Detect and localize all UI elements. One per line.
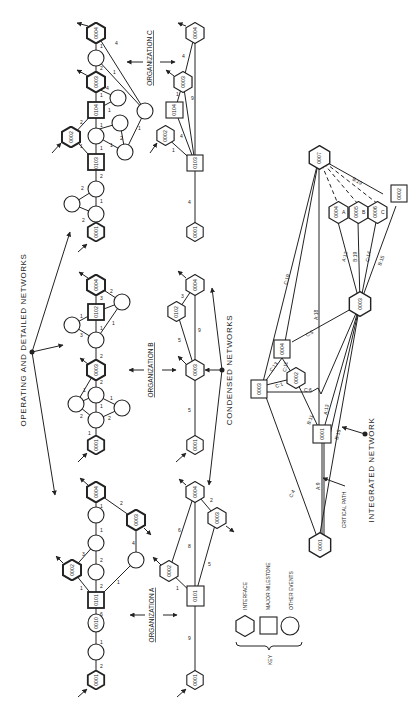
interface-hexagon-icon (236, 616, 254, 637)
event-circle-icon (281, 617, 299, 635)
svg-text:2: 2 (81, 185, 84, 191)
svg-text:5: 5 (178, 337, 181, 343)
svg-text:4: 4 (188, 199, 191, 205)
svg-text:0002: 0002 (68, 131, 74, 143)
svg-text:0001: 0001 (319, 428, 325, 440)
svg-text:4: 4 (115, 40, 118, 46)
svg-text:2: 2 (210, 497, 213, 503)
svg-text:0004: 0004 (192, 486, 198, 498)
svg-text:2: 2 (82, 217, 85, 223)
svg-text:1: 1 (100, 122, 103, 128)
svg-text:0102: 0102 (93, 306, 99, 318)
svg-text:6: 6 (178, 527, 181, 533)
svg-text:1: 1 (100, 92, 103, 98)
svg-text:C:6: C:6 (304, 387, 312, 393)
svg-text:0102: 0102 (173, 306, 179, 318)
svg-text:0003: 0003 (93, 364, 99, 376)
svg-text:C:13: C:13 (268, 360, 279, 372)
svg-text:C:4: C:4 (287, 489, 296, 499)
interface-node-0002: 0002 (287, 368, 305, 389)
interface-node-0007: 0007 (309, 146, 330, 170)
svg-text:9: 9 (188, 635, 191, 641)
svg-text:1: 1 (112, 320, 115, 326)
key-brace (236, 642, 302, 650)
svg-text:0004: 0004 (93, 279, 99, 291)
svg-text:1: 1 (100, 43, 103, 49)
svg-text:8: 8 (188, 543, 191, 549)
milestone-square-icon (260, 617, 277, 634)
interface-node: 0004 (87, 23, 105, 44)
svg-text:1: 1 (113, 69, 116, 75)
svg-text:0002: 0002 (396, 188, 402, 200)
interface-node: 0003 (186, 360, 204, 381)
org-a-label: ORGANIZATION A (148, 587, 155, 642)
interface-node: 0002 (62, 127, 80, 148)
svg-text:A:12: A:12 (340, 251, 349, 263)
svg-text:C: C (381, 209, 385, 215)
interface-node-0003: 0003 (349, 292, 370, 317)
svg-text:B:15: B:15 (333, 429, 342, 441)
svg-text:1: 1 (108, 107, 111, 113)
svg-text:1: 1 (83, 387, 86, 393)
interface-node: 0102 (168, 302, 185, 322)
condensed-network-b: 5 5 9 3 0001 0003 0102 0004 (168, 271, 204, 462)
svg-text:3: 3 (181, 293, 184, 299)
svg-text:1: 1 (172, 147, 175, 153)
bracket-arrow-c (212, 288, 222, 370)
svg-text:1: 1 (100, 198, 103, 204)
condensed-networks-title-group: CONDENSED NETWORKS (205, 288, 234, 485)
pert-network-diagram: OPERATING AND DETAILED NETWORKS CONDENSE… (0, 0, 416, 702)
interface-node: 0003 (87, 360, 105, 381)
interface-node-0001: 0001 (309, 533, 330, 558)
svg-text:5: 5 (208, 561, 211, 567)
bracket-arrow-c (32, 232, 70, 352)
svg-text:C:19: C:19 (282, 273, 291, 285)
svg-text:0003: 0003 (93, 76, 99, 88)
svg-text:4: 4 (106, 85, 109, 91)
milestone-node-0003: 0003 (251, 380, 267, 398)
svg-text:0004: 0004 (333, 206, 339, 218)
svg-text:1: 1 (80, 143, 83, 149)
integrated-network-title: INTEGRATED NETWORK (367, 417, 376, 522)
svg-text:0010: 0010 (93, 617, 99, 629)
integrated-arrow (342, 427, 365, 434)
svg-text:4: 4 (132, 540, 135, 546)
svg-text:C:1: C:1 (274, 381, 284, 389)
svg-text:0005: 0005 (353, 206, 359, 218)
svg-text:0004: 0004 (93, 486, 99, 498)
svg-text:1: 1 (110, 395, 113, 401)
org-label-a: ORGANIZATION A (130, 587, 177, 642)
svg-text:1: 1 (100, 403, 103, 409)
svg-text:1: 1 (100, 527, 103, 533)
interface-node: 0001 (88, 436, 104, 455)
svg-text:0003: 0003 (133, 514, 139, 526)
bracket-arrow-b (32, 345, 63, 352)
milestone-node: 0103 (187, 155, 203, 171)
svg-text:1: 1 (88, 430, 91, 436)
svg-text:2: 2 (100, 557, 103, 563)
milestone-node-0004: 0004 (274, 340, 290, 358)
svg-text:B:19: B:19 (352, 251, 358, 262)
svg-text:2: 2 (100, 583, 103, 589)
interface-node: 0003 (208, 508, 226, 529)
key-label: KEY (267, 654, 273, 665)
svg-text:1: 1 (80, 313, 83, 319)
svg-text:2: 2 (120, 135, 123, 141)
svg-text:2: 2 (100, 173, 103, 179)
condensed-networks-title: CONDENSED NETWORKS (225, 315, 234, 425)
key-milestone-label: MAJOR MILESTONE (265, 562, 271, 610)
svg-text:0003: 0003 (357, 298, 363, 310)
svg-text:1: 1 (100, 325, 103, 331)
svg-text:2: 2 (108, 415, 111, 421)
svg-text:0104: 0104 (171, 104, 177, 116)
interface-node: 0004 (87, 482, 105, 503)
event-node: 0010 (88, 614, 104, 632)
milestone-node: 0101 (187, 586, 204, 606)
org-c-label: ORGANIZATION C (146, 30, 153, 86)
svg-text:5: 5 (188, 407, 191, 413)
milestone-node: 0103 (88, 154, 104, 170)
org-label-c: ORGANIZATION C (127, 30, 175, 86)
interface-node: 0001 (187, 223, 203, 242)
svg-text:2: 2 (80, 119, 83, 125)
svg-text:0004: 0004 (192, 27, 198, 39)
